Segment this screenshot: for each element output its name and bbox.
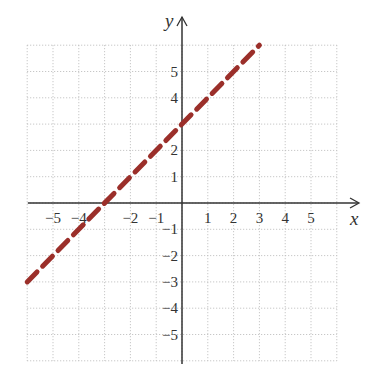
y-tick-label: 4 <box>171 90 179 106</box>
x-tick-label: 2 <box>230 210 238 226</box>
x-tick-label: 1 <box>204 210 212 226</box>
y-axis-label: y <box>163 10 174 31</box>
x-tick-label: −2 <box>122 210 138 226</box>
coordinate-plane: x y −5−4−2−112345 5421−1−2−3−4−5 <box>0 0 381 387</box>
axes: x y <box>28 10 359 364</box>
line-series <box>27 45 259 282</box>
x-tick-labels: −5−4−2−112345 <box>45 210 315 226</box>
x-tick-label: 3 <box>256 210 264 226</box>
y-tick-label: 5 <box>171 64 179 80</box>
y-tick-label: 2 <box>171 142 179 158</box>
x-tick-label: 5 <box>307 210 315 226</box>
y-tick-label: −1 <box>162 221 178 237</box>
y-tick-label: −3 <box>162 274 178 290</box>
y-tick-label: 1 <box>171 169 179 185</box>
y-tick-label: −4 <box>162 300 178 316</box>
y-tick-label: −2 <box>162 248 178 264</box>
y-tick-label: −5 <box>162 327 178 343</box>
x-tick-label: 4 <box>281 210 289 226</box>
x-axis-label: x <box>349 208 359 229</box>
x-tick-label: −5 <box>45 210 61 226</box>
data-series <box>27 45 259 282</box>
